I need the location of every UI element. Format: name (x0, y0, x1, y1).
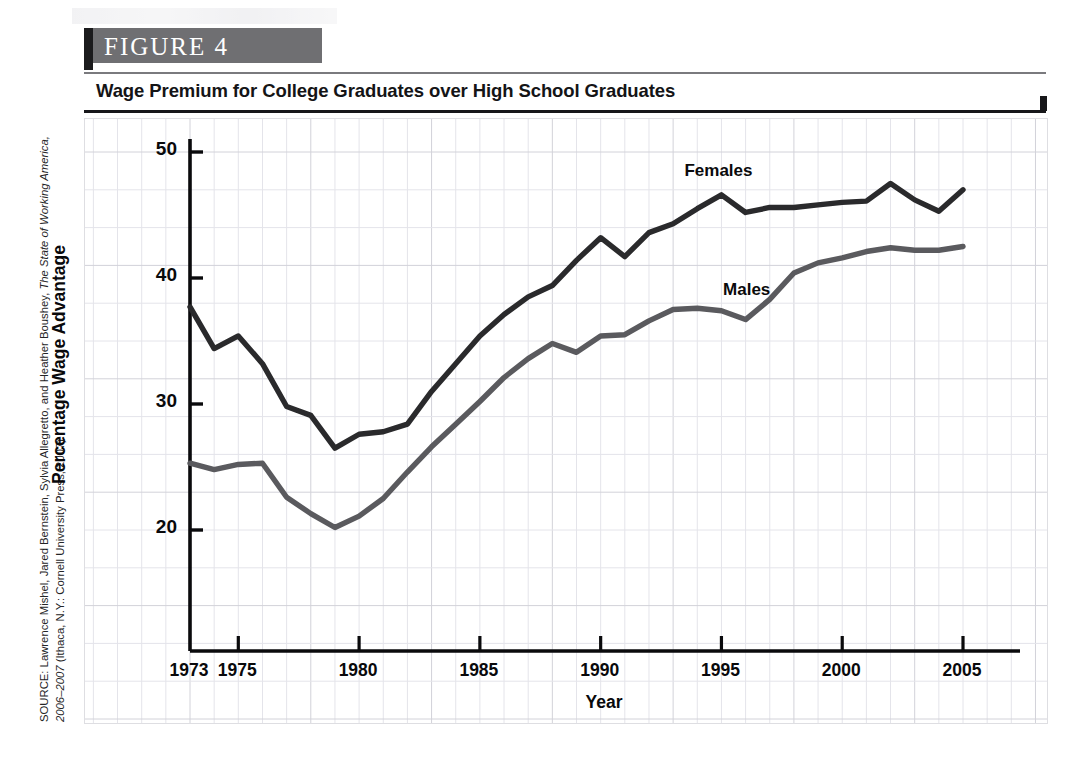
x-axis-title: Year (554, 692, 654, 713)
chart-series-layer (85, 119, 1047, 723)
x-axis-tick-label: 1995 (675, 660, 765, 681)
figure-banner-tab (84, 28, 93, 70)
chart-title: Wage Premium for College Graduates over … (96, 80, 675, 102)
figure-number-label: FIGURE 4 (104, 33, 229, 61)
x-axis-tick-label: 1975 (192, 660, 282, 681)
x-axis-tick-label: 1980 (313, 660, 403, 681)
x-axis-tick-label: 2005 (917, 660, 1007, 681)
y-axis-tick-label: 30 (111, 390, 177, 412)
title-rule-top (84, 72, 1046, 74)
y-axis-tick-label: 50 (111, 138, 177, 160)
title-end-marker (1040, 96, 1047, 111)
title-rule-bottom (84, 110, 1046, 113)
chart-plot-area (84, 118, 1048, 724)
x-axis-tick-label: 2000 (796, 660, 886, 681)
series-label-males: Males (723, 280, 770, 300)
y-axis-tick-label: 40 (111, 264, 177, 286)
scan-artifact-ghost-text (72, 8, 337, 24)
series-label-females: Females (684, 161, 752, 181)
y-axis-title: Percentage Wage Advantage (49, 220, 70, 510)
y-axis-tick-label: 20 (111, 516, 177, 538)
x-axis-tick-label: 1985 (434, 660, 524, 681)
x-axis-tick-label: 1990 (555, 660, 645, 681)
